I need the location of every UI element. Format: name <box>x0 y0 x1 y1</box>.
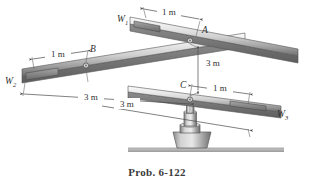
dimension-label-c-bar-end: 3 m <box>120 99 134 109</box>
dimension-label-w2-b: 1 m <box>51 49 65 59</box>
dimension-label-w1-a: 1 m <box>162 7 176 17</box>
weight-label-w3-subscript: 3 <box>284 114 289 121</box>
point-label-b: B <box>90 44 96 54</box>
weight-label-w3: W 3 <box>277 109 289 121</box>
point-label-a: A <box>201 25 208 35</box>
figure-caption: Prob. 6-122 <box>0 166 314 178</box>
weight-label-w1: W 1 <box>117 14 128 26</box>
ground-line <box>128 148 284 152</box>
dimension-label-c-w3: 1 m <box>213 83 227 93</box>
dimension-label-a-c: 3 m <box>206 58 220 68</box>
dimension-label-b-far-end: 3 m <box>84 92 98 102</box>
pedestal-support <box>173 103 211 148</box>
figure-container: 1 m 1 m 1 m 3 m <box>0 0 314 184</box>
weight-label-w1-subscript: 1 <box>125 19 128 26</box>
weight-label-w2: W 2 <box>5 76 17 88</box>
weight-label-w2-subscript: 2 <box>13 81 17 88</box>
point-label-c: C <box>180 80 187 90</box>
mechanism-diagram: 1 m 1 m 1 m 3 m <box>0 0 314 184</box>
lower-bar[interactable] <box>128 86 281 118</box>
